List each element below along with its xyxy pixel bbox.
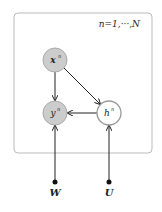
edge-x-to-h — [64, 68, 100, 104]
svg-text:h: h — [104, 108, 110, 118]
plate — [14, 13, 152, 153]
node-y: y n — [43, 101, 67, 125]
param-W: W — [49, 180, 62, 199]
graphical-model-diagram: n=1,···,N x n y n h n W U — [0, 0, 162, 212]
node-x: x n — [43, 48, 67, 72]
svg-text:U: U — [105, 187, 115, 198]
svg-text:W: W — [49, 187, 62, 198]
node-h: h n — [97, 101, 121, 125]
plate-label: n=1,···,N — [99, 19, 141, 29]
svg-text:y: y — [49, 108, 56, 118]
svg-text:n: n — [57, 106, 60, 112]
svg-text:n: n — [58, 53, 61, 59]
param-U: U — [105, 180, 115, 199]
svg-text:x: x — [49, 55, 56, 65]
svg-text:n: n — [111, 106, 114, 112]
